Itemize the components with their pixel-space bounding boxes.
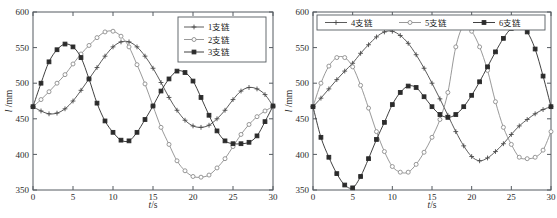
- x-axis-title-right: t/s: [428, 200, 437, 210]
- chart-panel-left: 051015202530350400450500550600 1支链2支链3支链…: [0, 0, 280, 218]
- figure-container: 051015202530350400450500550600 1支链2支链3支链…: [0, 0, 557, 218]
- legend-label: 2支链: [208, 35, 230, 45]
- legend-label: 5支链: [425, 18, 447, 28]
- y-tick-label: 400: [296, 150, 310, 160]
- y-tick-label: 350: [296, 185, 310, 195]
- legend-right[interactable]: 4支链5支链6支链: [317, 15, 545, 30]
- legend-label: 4支链: [351, 18, 373, 28]
- legend-label: 1支链: [208, 22, 230, 32]
- x-tick-label: 10: [109, 192, 119, 202]
- y-tick-label: 450: [296, 114, 310, 124]
- chart-right-svg: 051015202530350400450500550600 4支链5支链6支链…: [280, 0, 557, 218]
- x-tick-label: 30: [547, 192, 557, 202]
- chart-left-svg: 051015202530350400450500550600 1支链2支链3支链…: [0, 0, 280, 218]
- y-tick-label: 600: [296, 7, 310, 17]
- x-tick-label: 0: [31, 192, 36, 202]
- x-tick-label: 5: [71, 192, 76, 202]
- x-tick-label: 20: [189, 192, 199, 202]
- plot-border: [313, 12, 551, 190]
- plot-frame-right: [313, 12, 551, 190]
- legend-label: 3支链: [208, 47, 230, 57]
- y-axis-title-left: l /mm: [4, 89, 14, 112]
- legend-left[interactable]: 1支链2支链3支链: [178, 17, 266, 62]
- y-tick-label: 450: [16, 114, 30, 124]
- y-tick-label: 600: [16, 7, 30, 17]
- x-tick-label: 30: [269, 192, 279, 202]
- y-tick-label: 550: [16, 43, 30, 53]
- x-tick-label: 10: [388, 192, 398, 202]
- legend-label: 6支链: [499, 18, 521, 28]
- x-tick-label: 5: [350, 192, 355, 202]
- y-tick-label: 400: [16, 150, 30, 160]
- x-tick-label: 25: [507, 192, 517, 202]
- y-tick-label: 350: [16, 185, 30, 195]
- x-tick-label: 20: [467, 192, 477, 202]
- y-tick-label: 500: [16, 78, 30, 88]
- y-axis-title-right: l /mm: [284, 89, 294, 112]
- x-tick-label: 0: [311, 192, 316, 202]
- chart-panel-right: 051015202530350400450500550600 4支链5支链6支链…: [280, 0, 557, 218]
- x-tick-label: 25: [229, 192, 239, 202]
- y-tick-label: 550: [296, 43, 310, 53]
- y-tick-label: 500: [296, 78, 310, 88]
- x-axis-title-left: t/s: [149, 200, 158, 210]
